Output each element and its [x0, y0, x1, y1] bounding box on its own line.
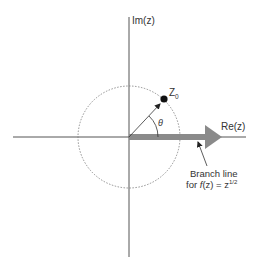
imaginary-axis-label: Im(z): [132, 15, 155, 26]
real-axis-label: Re(z): [221, 121, 245, 132]
complex-plane-diagram: Im(z) Re(z) Z0 θ Branch line for f(z) = …: [0, 0, 257, 267]
branch-line-label: Branch line: [190, 168, 238, 179]
point-z0-label: Z0: [169, 87, 179, 100]
point-z0-dot: [160, 95, 167, 102]
angle-arc: [149, 116, 158, 137]
radius-vector: [129, 104, 160, 137]
branch-function-label: for f(z) = z1/2: [186, 179, 238, 190]
branch-line-arrow: [129, 125, 222, 149]
angle-theta-label: θ: [158, 118, 163, 128]
